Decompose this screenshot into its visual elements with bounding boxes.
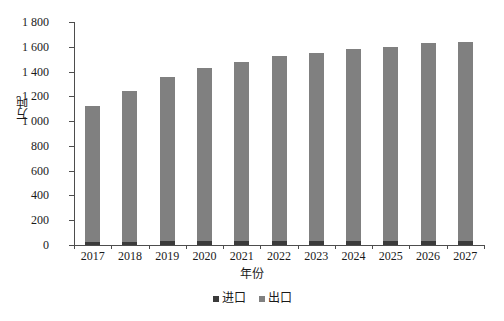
bar-segment-import — [383, 241, 398, 245]
y-axis-tick-label: 800 — [0, 140, 49, 152]
bar-group — [458, 42, 473, 245]
bar-segment-export — [421, 43, 436, 241]
x-axis-tick — [298, 245, 299, 249]
bar-segment-import — [234, 241, 249, 245]
y-axis-tick — [69, 121, 74, 122]
legend-swatch-icon — [259, 296, 265, 302]
bar-segment-import — [85, 242, 100, 245]
x-axis-tick — [223, 245, 224, 249]
y-axis-tick — [69, 72, 74, 73]
bar-segment-import — [160, 241, 175, 245]
x-axis-tick — [111, 245, 112, 249]
bar-segment-export — [272, 56, 287, 241]
x-axis-tick — [260, 245, 261, 249]
bar-group — [309, 53, 324, 245]
x-axis-tick-label: 2027 — [440, 250, 490, 262]
bar-segment-import — [421, 241, 436, 245]
bar-segment-import — [272, 241, 287, 245]
chart-legend: 进口出口 — [0, 292, 504, 305]
bar-segment-import — [122, 242, 137, 245]
y-axis-tick-label: 1 800 — [0, 16, 49, 28]
x-axis-tick — [149, 245, 150, 249]
bar-group — [421, 43, 436, 245]
bar-group — [272, 56, 287, 245]
bar-segment-export — [197, 68, 212, 241]
x-axis-tick — [186, 245, 187, 249]
bar-segment-export — [122, 91, 137, 242]
x-axis-line — [74, 245, 484, 246]
bar-group — [85, 106, 100, 245]
y-axis-line — [74, 22, 75, 245]
bar-segment-export — [309, 53, 324, 241]
y-axis-tick-label: 1 400 — [0, 66, 49, 78]
bar-segment-import — [458, 241, 473, 245]
bar-group — [197, 68, 212, 245]
bar-segment-export — [346, 49, 361, 240]
bar-segment-export — [458, 42, 473, 241]
legend-item-label: 进口 — [222, 292, 246, 305]
x-axis-tick — [74, 245, 75, 249]
legend-item[interactable]: 进口 — [213, 292, 246, 305]
y-axis-tick-label: 600 — [0, 165, 49, 177]
y-axis-tick — [69, 171, 74, 172]
bar-group — [122, 91, 137, 245]
legend-item[interactable]: 出口 — [259, 292, 292, 305]
x-axis-title: 年份 — [0, 268, 504, 281]
bar-group — [160, 77, 175, 245]
y-axis-tick — [69, 146, 74, 147]
legend-swatch-icon — [213, 296, 219, 302]
y-axis-tick — [69, 96, 74, 97]
bar-group — [383, 47, 398, 245]
plot-area: 1 8001 6001 4001 2001 0008006004002000 — [74, 22, 484, 245]
bar-group — [346, 49, 361, 245]
y-axis-tick-label: 1 000 — [0, 115, 49, 127]
bar-segment-import — [309, 241, 324, 245]
bar-segment-import — [197, 241, 212, 245]
bar-segment-export — [85, 106, 100, 242]
y-axis-tick — [69, 220, 74, 221]
bar-segment-export — [383, 47, 398, 241]
bar-segment-import — [346, 241, 361, 245]
bar-group — [234, 62, 249, 245]
y-axis-tick-label: 1 200 — [0, 90, 49, 102]
x-axis-tick — [447, 245, 448, 249]
y-axis-tick-label: 1 600 — [0, 41, 49, 53]
bar-segment-export — [160, 77, 175, 242]
bar-chart: 万吨 1 8001 6001 4001 2001 000800600400200… — [0, 0, 504, 321]
bar-segment-export — [234, 62, 249, 242]
y-axis-tick-label: 0 — [0, 239, 49, 251]
x-axis-tick — [409, 245, 410, 249]
y-axis-tick-label: 200 — [0, 214, 49, 226]
y-axis-tick — [69, 22, 74, 23]
x-axis-tick — [372, 245, 373, 249]
x-axis-tick — [484, 245, 485, 249]
x-axis-tick — [335, 245, 336, 249]
y-axis-tick — [69, 195, 74, 196]
y-axis-tick — [69, 47, 74, 48]
legend-item-label: 出口 — [268, 292, 292, 305]
y-axis-tick-label: 400 — [0, 189, 49, 201]
